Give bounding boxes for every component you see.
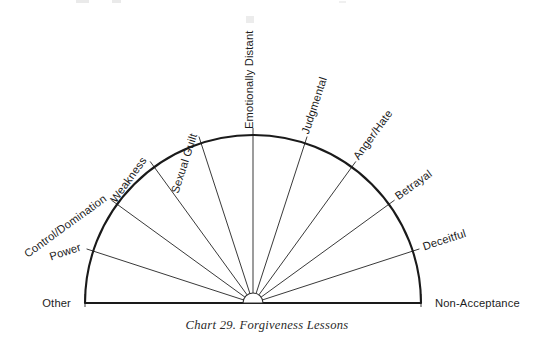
spoke-label-sexual-guilt: Sexual Guilt [169, 131, 200, 194]
spoke-line [87, 249, 244, 300]
spoke-line [199, 137, 250, 294]
spoke-line [111, 200, 244, 297]
spoke-line [259, 161, 356, 294]
spoke-line [150, 161, 247, 294]
spoke-label-anger-hate: Anger/Hate [351, 108, 395, 162]
spoke-label-deceitful: Deceitful [421, 227, 467, 252]
spoke-label-non-acceptance: Non-Acceptance [435, 297, 520, 309]
spoke-label-judgmental: Judgmental [299, 75, 329, 135]
spokes-group [85, 128, 421, 307]
spoke-label-power: Power [48, 241, 83, 262]
spoke-label-weakness: Weakness [108, 154, 149, 204]
figure-caption: Chart 29. Forgiveness Lessons [0, 318, 534, 333]
spoke-line [263, 249, 420, 300]
spoke-line [261, 200, 394, 297]
center-hub [243, 293, 263, 303]
spoke-labels-group: OtherPowerControl/DominationWeaknessSexu… [22, 30, 520, 309]
chart-page: OtherPowerControl/DominationWeaknessSexu… [0, 0, 534, 349]
forgiveness-lessons-semicircle-chart: OtherPowerControl/DominationWeaknessSexu… [0, 0, 534, 349]
spoke-line [256, 137, 307, 294]
spoke-label-emotionally-distant: Emotionally Distant [243, 30, 255, 129]
spoke-label-other: Other [42, 297, 71, 309]
spoke-label-betrayal: Betrayal [393, 167, 434, 202]
